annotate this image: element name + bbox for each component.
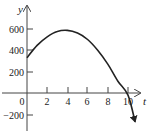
x-tick-label-8: 8 (106, 96, 111, 107)
chart: y t 600 400 200 −200 0 2 4 6 8 10 (0, 0, 156, 133)
x-tick-label-4: 4 (66, 96, 71, 107)
data-curve (27, 30, 135, 122)
x-axis-label: t (143, 95, 147, 107)
x-tick-label-2: 2 (45, 96, 50, 107)
y-tick-label-400: 400 (9, 45, 24, 56)
y-tick-label-neg200: −200 (3, 110, 24, 121)
y-tick-label-600: 600 (9, 24, 24, 35)
y-ticks (27, 29, 33, 115)
x-tick-label-6: 6 (85, 96, 90, 107)
x-ticks (47, 87, 128, 93)
y-axis-label: y (17, 3, 23, 15)
y-tick-label-200: 200 (9, 67, 24, 78)
origin-label: 0 (20, 96, 25, 107)
